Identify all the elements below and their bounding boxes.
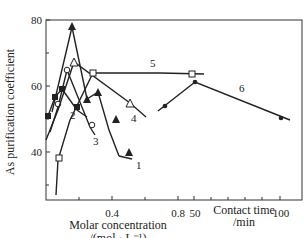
- y-tick-label: 40: [31, 146, 43, 158]
- series-1: 1: [52, 22, 142, 171]
- x-tick-label: 50: [190, 207, 202, 219]
- series-label-1: 1: [136, 159, 142, 171]
- x-axis-title-left: Molar concentration: [69, 218, 167, 232]
- y-tick-label: 80: [31, 14, 43, 26]
- series-label-3: 3: [93, 135, 99, 147]
- y-axis: 80 60 40 As purification coefficient: [3, 14, 50, 185]
- chart: 80 60 40 As purification coefficient 0.4…: [0, 0, 308, 238]
- series-label-4: 4: [131, 112, 137, 124]
- x-tick-label: 0.8: [171, 207, 185, 219]
- x-axis: 0.4 0.8 50 100 Molar concentration /(mol…: [69, 196, 290, 238]
- filled-triangle-marker: [68, 22, 76, 30]
- y-tick-label: 60: [31, 80, 43, 92]
- series-label-5: 5: [150, 57, 156, 69]
- series-label-6: 6: [239, 82, 245, 94]
- series-6: 6: [158, 80, 290, 121]
- x-axis-unit-left: /(mol · L⁻¹): [90, 231, 147, 238]
- series-5: 5: [56, 57, 204, 195]
- y-axis-title: As purification coefficient: [3, 48, 17, 175]
- x-axis-unit-right: /min: [233, 215, 255, 229]
- x-tick-label: 100: [273, 207, 290, 219]
